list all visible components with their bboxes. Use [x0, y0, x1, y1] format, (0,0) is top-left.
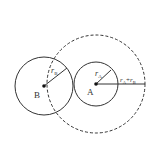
center-point-A	[94, 82, 98, 86]
label-rB: rB	[51, 66, 58, 76]
diagram-canvas: B A rB rA rA+rB	[0, 0, 155, 144]
label-B: B	[34, 90, 40, 100]
label-rA: rA	[95, 69, 102, 79]
label-A: A	[87, 87, 94, 97]
center-point-B	[42, 84, 46, 88]
label-rA-plus-rB: rA+rB	[120, 76, 136, 85]
